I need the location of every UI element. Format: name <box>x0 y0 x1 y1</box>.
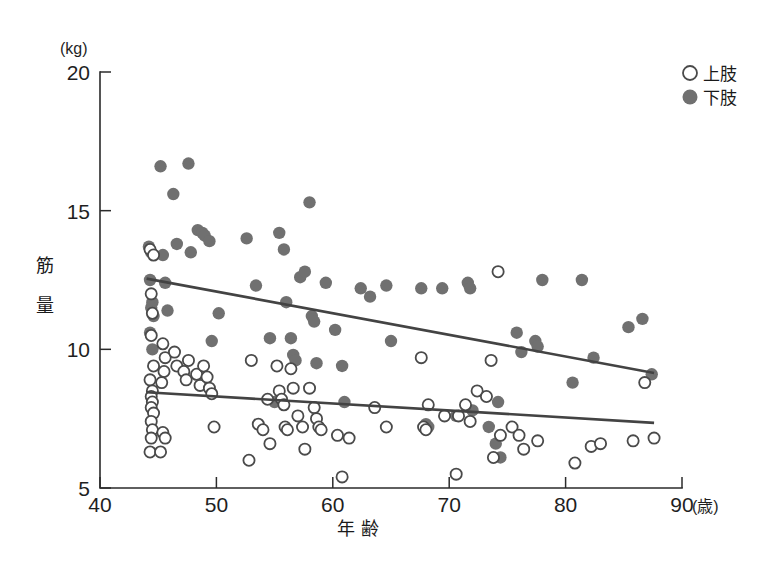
data-point-lower-limb <box>436 282 448 294</box>
data-point-lower-limb <box>320 277 332 289</box>
data-point-upper-limb <box>146 432 157 443</box>
data-point-lower-limb <box>167 188 179 200</box>
data-point-upper-limb <box>144 446 155 457</box>
data-point-lower-limb <box>329 324 341 336</box>
data-point-upper-limb <box>639 377 650 388</box>
data-point-lower-limb <box>240 232 252 244</box>
data-point-upper-limb <box>332 430 343 441</box>
data-point-upper-limb <box>160 432 171 443</box>
legend-label-lower-limbs: 下肢 <box>703 88 737 108</box>
data-point-lower-limb <box>464 282 476 294</box>
x-tick-label: 80 <box>554 493 577 516</box>
data-point-upper-limb <box>288 383 299 394</box>
y-tick-label: 20 <box>67 61 90 84</box>
x-axis-unit-label: (歳) <box>692 498 719 515</box>
data-point-lower-limb <box>483 421 495 433</box>
legend-marker-filled-circle <box>683 90 698 105</box>
data-point-upper-limb <box>201 371 212 382</box>
data-point-upper-limb <box>488 452 499 463</box>
data-point-upper-limb <box>648 432 659 443</box>
data-point-upper-limb <box>271 360 282 371</box>
data-point-upper-limb <box>292 410 303 421</box>
data-point-lower-limb <box>203 235 215 247</box>
data-point-lower-limb <box>206 335 218 347</box>
data-point-lower-limb <box>285 332 297 344</box>
x-tick-label: 50 <box>205 493 228 516</box>
x-tick-label: 70 <box>438 493 461 516</box>
data-point-upper-limb <box>169 347 180 358</box>
data-point-lower-limb <box>161 304 173 316</box>
data-point-lower-limb <box>415 282 427 294</box>
data-point-lower-limb <box>171 238 183 250</box>
data-point-upper-limb <box>148 249 159 260</box>
data-point-upper-limb <box>492 266 503 277</box>
y-axis-unit-label: (kg) <box>60 40 88 57</box>
data-point-upper-limb <box>285 363 296 374</box>
data-point-upper-limb <box>198 360 209 371</box>
data-point-upper-limb <box>420 424 431 435</box>
data-point-upper-limb <box>304 383 315 394</box>
data-point-upper-limb <box>513 430 524 441</box>
data-point-upper-limb <box>282 424 293 435</box>
data-point-lower-limb <box>154 160 166 172</box>
x-tick-label: 60 <box>321 493 344 516</box>
legend-label-upper-limbs: 上肢 <box>703 64 737 84</box>
data-point-upper-limb <box>144 374 155 385</box>
data-point-lower-limb <box>213 307 225 319</box>
data-point-upper-limb <box>155 446 166 457</box>
data-point-lower-limb <box>536 274 548 286</box>
x-axis-title: 年 齢 <box>337 518 379 539</box>
data-point-upper-limb <box>337 471 348 482</box>
data-point-upper-limb <box>147 308 158 319</box>
data-point-lower-limb <box>250 279 262 291</box>
data-point-lower-limb <box>303 196 315 208</box>
data-point-upper-limb <box>465 416 476 427</box>
data-point-upper-limb <box>416 352 427 363</box>
data-point-lower-limb <box>182 157 194 169</box>
data-point-upper-limb <box>569 457 580 468</box>
data-point-upper-limb <box>146 330 157 341</box>
scatter-chart: 5101520 405060708090 (kg) (歳) 筋 量 年 齢 上肢… <box>0 0 760 571</box>
data-point-upper-limb <box>532 435 543 446</box>
data-point-upper-limb <box>495 430 506 441</box>
y-tick-label: 15 <box>67 200 90 223</box>
data-point-upper-limb <box>481 391 492 402</box>
data-point-lower-limb <box>622 321 634 333</box>
data-point-lower-limb <box>264 332 276 344</box>
data-point-upper-limb <box>486 355 497 366</box>
data-point-upper-limb <box>243 455 254 466</box>
data-point-lower-limb <box>355 282 367 294</box>
y-axis-title-char-2: 量 <box>36 295 54 316</box>
data-point-lower-limb <box>308 315 320 327</box>
data-point-upper-limb <box>344 432 355 443</box>
y-axis-title-char-1: 筋 <box>36 255 54 276</box>
data-point-lower-limb <box>636 313 648 325</box>
data-point-upper-limb <box>246 355 257 366</box>
chart-background <box>0 0 760 571</box>
data-point-upper-limb <box>299 444 310 455</box>
data-point-upper-limb <box>257 424 268 435</box>
data-point-upper-limb <box>628 435 639 446</box>
data-point-upper-limb <box>157 338 168 349</box>
figure-container: 5101520 405060708090 (kg) (歳) 筋 量 年 齢 上肢… <box>0 0 760 571</box>
x-tick-label: 90 <box>670 493 693 516</box>
data-point-upper-limb <box>518 444 529 455</box>
data-point-lower-limb <box>385 335 397 347</box>
cropped-caption <box>40 557 720 567</box>
data-point-upper-limb <box>158 366 169 377</box>
data-point-upper-limb <box>439 410 450 421</box>
data-point-upper-limb <box>148 360 159 371</box>
x-tick-label: 40 <box>88 493 111 516</box>
data-point-lower-limb <box>492 396 504 408</box>
data-point-lower-limb <box>380 279 392 291</box>
y-tick-label: 10 <box>67 338 90 361</box>
data-point-upper-limb <box>451 469 462 480</box>
data-point-upper-limb <box>264 438 275 449</box>
data-point-lower-limb <box>511 326 523 338</box>
data-point-upper-limb <box>460 399 471 410</box>
data-point-lower-limb <box>310 357 322 369</box>
data-point-lower-limb <box>566 376 578 388</box>
data-point-lower-limb <box>278 243 290 255</box>
data-point-upper-limb <box>183 355 194 366</box>
data-point-lower-limb <box>364 290 376 302</box>
